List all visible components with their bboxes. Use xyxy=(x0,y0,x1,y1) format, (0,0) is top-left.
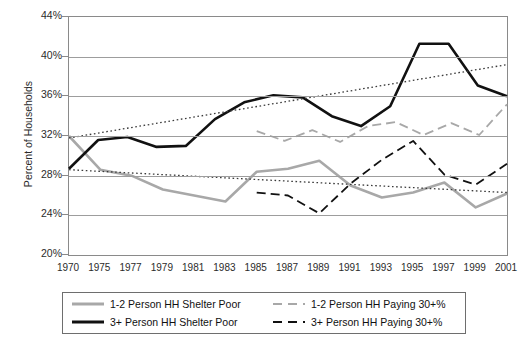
series-line-trend-1-2-shelter-poor xyxy=(69,170,507,193)
y-tick-label: 36% xyxy=(4,89,62,100)
y-tick-label: 40% xyxy=(4,50,62,61)
y-tick-label: 24% xyxy=(4,208,62,219)
legend-1-2-shelter-poor[interactable]: 1-2 Person HH Shelter Poor xyxy=(63,295,264,313)
chart-legend: 1-2 Person HH Shelter Poor1-2 Person HH … xyxy=(62,292,466,334)
legend-1-2-paying-30[interactable]: 1-2 Person HH Paying 30+% xyxy=(264,295,465,313)
y-tick-label: 28% xyxy=(4,169,62,180)
y-tick-label: 44% xyxy=(4,10,62,21)
legend-label: 3+ Person HH Shelter Poor xyxy=(110,316,238,328)
gridline xyxy=(69,96,507,97)
legend-label: 3+ Person HH Paying 30+% xyxy=(311,316,442,328)
legend-swatch-icon xyxy=(71,316,105,328)
gridline xyxy=(69,215,507,216)
legend-swatch-icon xyxy=(71,298,105,310)
gridline xyxy=(69,136,507,137)
chart-container: Percent of Households 20%24%28%32%36%40%… xyxy=(0,0,524,344)
y-tick-label: 20% xyxy=(4,248,62,259)
y-tick-label: 32% xyxy=(4,129,62,140)
legend-3plus-shelter-poor[interactable]: 3+ Person HH Shelter Poor xyxy=(63,313,264,331)
legend-swatch-icon xyxy=(272,298,306,310)
plot-area xyxy=(68,16,508,256)
legend-label: 1-2 Person HH Shelter Poor xyxy=(110,298,241,310)
legend-swatch-icon xyxy=(272,316,306,328)
y-axis-ticks: 20%24%28%32%36%40%44% xyxy=(0,0,68,344)
series-line-3-person-hh-shelter-poor xyxy=(69,44,507,169)
legend-3plus-paying-30[interactable]: 3+ Person HH Paying 30+% xyxy=(264,313,465,331)
gridline xyxy=(69,176,507,177)
x-tick-label: 2001 xyxy=(486,262,524,273)
legend-label: 1-2 Person HH Paying 30+% xyxy=(311,298,446,310)
gridline xyxy=(69,57,507,58)
